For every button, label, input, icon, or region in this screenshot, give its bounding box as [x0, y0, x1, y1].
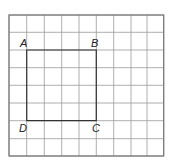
vertex-label-d: D — [19, 122, 27, 134]
vertex-label-a: A — [19, 37, 27, 49]
vertex-label-b: B — [91, 37, 98, 49]
grid-diagram: A B C D — [0, 0, 175, 167]
vertex-label-c: C — [92, 122, 100, 134]
grid-lines — [9, 15, 164, 156]
